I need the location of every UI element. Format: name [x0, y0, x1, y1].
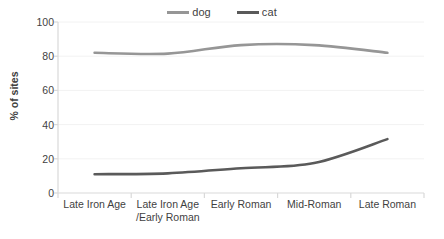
- series-line-dog: [95, 44, 388, 54]
- legend-entry-dog: dog: [167, 7, 211, 18]
- legend-swatch-cat: [237, 11, 259, 14]
- chart-container: dog cat % of sites 100 80 60 40 20 0 Lat…: [0, 0, 444, 239]
- plot-svg: [58, 22, 424, 193]
- x-tick-label-late-roman: Late Roman: [351, 198, 424, 239]
- x-tick-label-late-iron-age-early-roman: Late Iron Age /Early Roman: [131, 198, 204, 239]
- y-tick-label: 80: [28, 51, 54, 62]
- gridlines: [58, 22, 424, 159]
- x-axis-ticks: Late Iron Age Late Iron Age /Early Roman…: [58, 198, 424, 239]
- y-axis-ticks: 100 80 60 40 20 0: [26, 0, 54, 239]
- y-tick-label: 40: [28, 120, 54, 131]
- y-tick-label: 100: [28, 17, 54, 28]
- y-tick-label: 60: [28, 85, 54, 96]
- x-tick-label-early-roman: Early Roman: [204, 198, 277, 239]
- plot-area: [58, 22, 424, 193]
- y-tick-label: 0: [28, 188, 54, 199]
- x-tick-label-mid-roman: Mid-Roman: [278, 198, 351, 239]
- y-axis-title: % of sites: [8, 61, 20, 131]
- legend-label-dog: dog: [192, 7, 211, 18]
- series-line-cat: [95, 139, 388, 174]
- legend-entry-cat: cat: [237, 7, 277, 18]
- data-series-layer: [95, 44, 388, 174]
- x-tick-label-late-iron-age: Late Iron Age: [58, 198, 131, 239]
- legend-label-cat: cat: [262, 7, 277, 18]
- y-tick-label: 20: [28, 154, 54, 165]
- legend-swatch-dog: [167, 11, 189, 14]
- chart-legend: dog cat: [0, 2, 444, 22]
- tick-marks: [54, 22, 424, 198]
